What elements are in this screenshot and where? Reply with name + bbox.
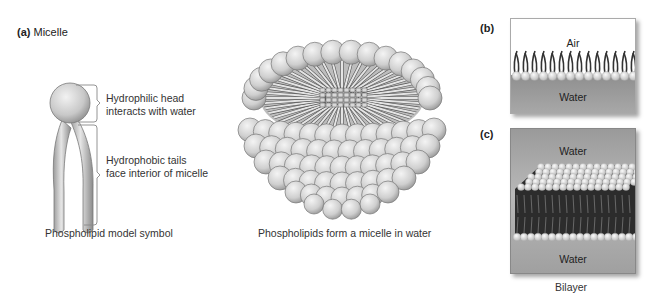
panel-c-label: (c): [480, 128, 493, 140]
hydrophilic-head-annotation: Hydrophilic head interacts with water: [106, 92, 196, 118]
bilayer-image: Water Water: [510, 128, 636, 274]
head-annotation-line2: interacts with water: [106, 105, 196, 118]
micelle-caption: Phospholipids form a micelle in water: [258, 227, 431, 239]
tails-annotation-line2: face interior of micelle: [106, 167, 208, 180]
panel-a-tag: (a): [17, 26, 30, 38]
water-label-c-top: Water: [511, 145, 635, 157]
phospholipid-symbol-caption: Phospholipid model symbol: [45, 227, 173, 239]
panel-a-label: (a) Micelle: [17, 26, 68, 38]
water-label-c-bottom: Water: [511, 253, 635, 265]
air-water-interface-image: Air Water: [510, 18, 636, 114]
bilayer-caption: Bilayer: [555, 281, 587, 293]
panel-b-label: (b): [480, 22, 494, 34]
monolayer-graphic: [511, 49, 635, 113]
panel-c-tag: (c): [480, 128, 493, 140]
panel-b-tag: (b): [480, 22, 494, 34]
head-annotation-line1: Hydrophilic head: [106, 92, 196, 105]
annotation-brackets: [72, 82, 102, 242]
hydrophobic-tails-annotation: Hydrophobic tails face interior of micel…: [106, 154, 208, 180]
water-label-b: Water: [511, 91, 635, 103]
tails-annotation-line1: Hydrophobic tails: [106, 154, 208, 167]
micelle-illustration: [232, 30, 452, 220]
panel-a-title: Micelle: [34, 26, 68, 38]
air-label: Air: [511, 37, 635, 49]
